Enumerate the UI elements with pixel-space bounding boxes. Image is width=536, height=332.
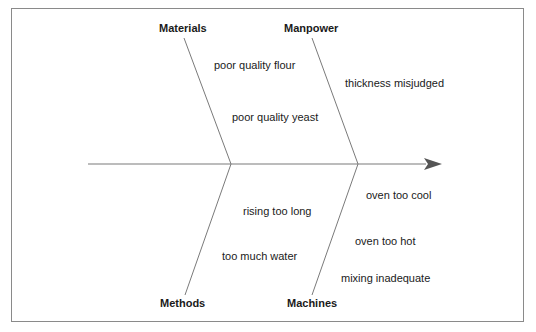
cause-thickness-misjudged: thickness misjudged — [345, 77, 444, 90]
cause-oven-too-cool: oven too cool — [366, 189, 431, 202]
category-manpower: Manpower — [284, 22, 338, 35]
cause-poor-quality-flour: poor quality flour — [214, 59, 295, 72]
bone-manpower — [312, 38, 358, 164]
category-materials: Materials — [159, 22, 207, 35]
cause-oven-too-hot: oven too hot — [355, 235, 416, 248]
fishbone-lines — [0, 0, 536, 332]
cause-poor-quality-yeast: poor quality yeast — [232, 111, 318, 124]
bone-materials — [184, 38, 231, 164]
category-methods: Methods — [160, 297, 205, 310]
arrowhead-icon — [424, 158, 442, 170]
cause-mixing-inadequate: mixing inadequate — [341, 272, 430, 285]
bone-methods — [185, 164, 231, 295]
cause-rising-too-long: rising too long — [243, 205, 312, 218]
cause-too-much-water: too much water — [222, 250, 297, 263]
category-machines: Machines — [287, 297, 337, 310]
